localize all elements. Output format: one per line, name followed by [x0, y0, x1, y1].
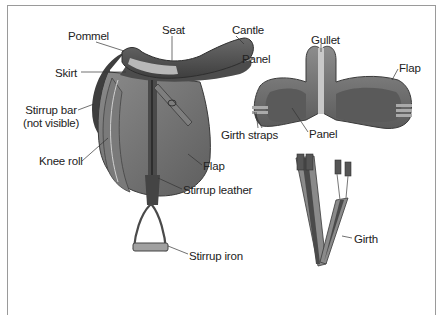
- label-flap-under: Flap: [399, 62, 421, 74]
- label-gullet: Gullet: [311, 34, 340, 46]
- saddle-underside-view: [252, 46, 412, 128]
- label-stirrup-bar: Stirrup bar (not visible): [23, 104, 79, 130]
- label-flap-side: Flap: [203, 160, 225, 172]
- girth-figure: [296, 154, 351, 266]
- label-knee-roll: Knee roll: [39, 155, 83, 167]
- label-stirrup-leather: Stirrup leather: [183, 184, 252, 196]
- label-stirrup-bar-line1: Stirrup bar: [23, 104, 79, 117]
- label-pommel: Pommel: [68, 30, 109, 42]
- label-stirrup-iron: Stirrup iron: [189, 250, 243, 262]
- label-stirrup-bar-line2: (not visible): [23, 117, 79, 130]
- label-seat: Seat: [162, 24, 185, 36]
- label-girth: Girth: [354, 233, 378, 245]
- label-skirt: Skirt: [55, 67, 77, 79]
- label-girth-straps: Girth straps: [221, 129, 278, 141]
- saddle-side-view: [92, 38, 253, 251]
- label-cantle: Cantle: [232, 24, 264, 36]
- label-panel-side: Panel: [242, 53, 270, 65]
- label-panel-under: Panel: [309, 128, 337, 140]
